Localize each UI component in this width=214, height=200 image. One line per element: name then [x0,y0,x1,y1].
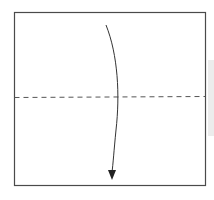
fold-diagram [0,0,214,200]
paper-square [15,13,206,186]
